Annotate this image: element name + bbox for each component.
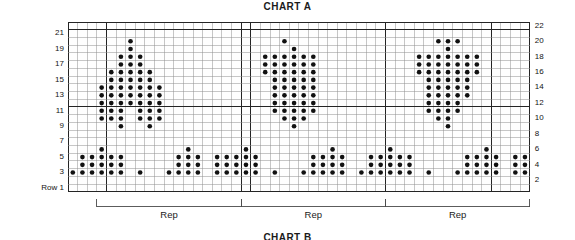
- row-label-19: 19: [0, 45, 64, 53]
- row-label-5: 5: [0, 153, 64, 161]
- row-label-20: 20: [535, 37, 575, 45]
- chart-grid[interactable]: [68, 22, 530, 192]
- row-label-9: 9: [0, 122, 64, 130]
- row-label-4: 4: [535, 161, 575, 169]
- row-label-16: 16: [535, 68, 575, 76]
- row-label-7: 7: [0, 137, 64, 145]
- row-label-10: 10: [535, 114, 575, 122]
- chart-a-figure: CHART A 2119171513119753Row 1 2220181614…: [0, 0, 575, 240]
- row-label-12: 12: [535, 99, 575, 107]
- chart-stitch-dots: [68, 22, 530, 192]
- page-title: CHART A: [0, 1, 575, 12]
- repeat-bracket: [97, 199, 241, 207]
- repeat-label: Rep: [97, 209, 241, 220]
- row-label-15: 15: [0, 76, 64, 84]
- row-label-3: 3: [0, 168, 64, 176]
- row-label-13: 13: [0, 91, 64, 99]
- repeat-bracket: [241, 199, 385, 207]
- row-label-17: 17: [0, 60, 64, 68]
- row-label-2: 2: [535, 176, 575, 184]
- row-label-6: 6: [535, 145, 575, 153]
- row-label-18: 18: [535, 53, 575, 61]
- row-label-8: 8: [535, 130, 575, 138]
- repeat-label: Rep: [241, 209, 385, 220]
- row-label-11: 11: [0, 107, 64, 115]
- repeat-label: Rep: [385, 209, 529, 220]
- row-label-21: 21: [0, 29, 64, 37]
- repeat-bracket: [385, 199, 529, 207]
- row-label-14: 14: [535, 83, 575, 91]
- row-label-row-1: Row 1: [0, 184, 64, 192]
- row-label-22: 22: [535, 22, 575, 30]
- next-chart-title: CHART B: [0, 232, 575, 240]
